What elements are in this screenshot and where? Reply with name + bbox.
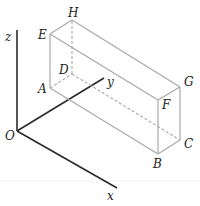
x-axis-label: x [107,189,114,203]
edge-HG [72,20,180,87]
vertex-label-F: F [161,98,171,112]
y-axis-label: y [106,75,114,89]
vertex-label-C: C [184,137,193,151]
cuboid-diagram: z y x O A B C D E F G H [0,0,200,206]
edge-BC [158,140,180,154]
vertex-label-E: E [37,28,47,42]
vertex-label-B: B [152,157,162,171]
edge-EH [50,20,72,34]
edge-AB [50,88,158,154]
vertex-label-G: G [184,75,194,89]
z-axis-label: z [4,30,12,44]
origin-label: O [5,129,15,143]
vertex-label-D: D [58,63,69,77]
vertex-label-A: A [37,82,47,96]
x-axis [17,131,117,188]
vertex-label-H: H [67,6,79,20]
